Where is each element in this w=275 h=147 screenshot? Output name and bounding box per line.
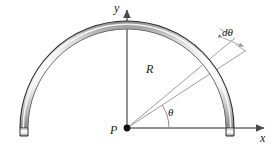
theta-angle-label: θ bbox=[168, 107, 173, 118]
radius-label: R bbox=[146, 63, 153, 75]
x-axis-label: x bbox=[260, 132, 265, 144]
point-P-marker bbox=[124, 125, 131, 132]
y-axis-label: y bbox=[114, 2, 119, 14]
diagram-canvas bbox=[0, 0, 275, 147]
point-P-label: P bbox=[110, 124, 117, 136]
dtheta-element-label: dθ bbox=[222, 27, 233, 38]
ring-tail-right bbox=[226, 128, 234, 136]
ring-tail-left bbox=[20, 128, 28, 136]
physics-diagram-semicircular-ring: y x P R θ dθ bbox=[0, 0, 275, 147]
